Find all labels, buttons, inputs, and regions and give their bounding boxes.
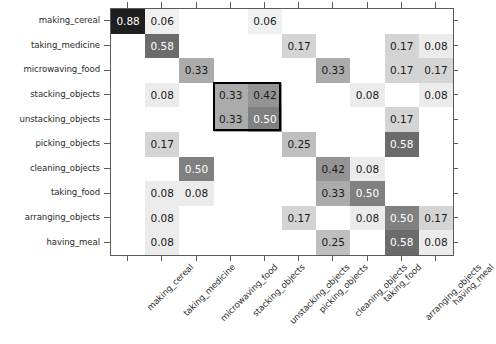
heatmap-cell-value: 0.42 — [253, 90, 276, 101]
heatmap-cell-value: 0.33 — [219, 114, 242, 125]
heatmap-cell — [282, 83, 316, 108]
heatmap-cell — [111, 58, 145, 83]
heatmap-cell — [111, 206, 145, 231]
heatmap-cell-value: 0.33 — [322, 65, 345, 76]
heatmap-cell — [419, 181, 453, 206]
heatmap-cell — [111, 132, 145, 157]
heatmap-cell — [316, 107, 350, 132]
heatmap-cell: 0.17 — [385, 34, 419, 59]
heatmap-cell — [316, 9, 350, 34]
heatmap-cell — [419, 107, 453, 132]
heatmap-cell: 0.50 — [248, 107, 282, 132]
heatmap-cell: 0.50 — [179, 157, 213, 182]
heatmap-cell — [214, 181, 248, 206]
heatmap-cell — [248, 157, 282, 182]
heatmap-cell-value: 0.17 — [287, 213, 310, 224]
heatmap-cell — [282, 58, 316, 83]
heatmap-cell-value: 0.06 — [151, 16, 174, 27]
heatmap-cell — [248, 181, 282, 206]
heatmap-cell: 0.08 — [350, 157, 384, 182]
y-tick-label: taking_food — [0, 180, 106, 205]
y-tick-label: having_meal — [0, 229, 106, 254]
heatmap-cell — [179, 34, 213, 59]
heatmap-cell-value: 0.58 — [151, 41, 174, 52]
heatmap-cell-value: 0.08 — [356, 164, 379, 175]
heatmap-cell-value: 0.50 — [356, 188, 379, 199]
heatmap-cell: 0.08 — [145, 206, 179, 231]
heatmap-cell — [179, 132, 213, 157]
heatmap-cell-value: 0.50 — [185, 164, 208, 175]
x-tick-label: arranging_objects — [423, 262, 483, 322]
heatmap-cell: 0.08 — [145, 83, 179, 108]
heatmap-cell — [419, 9, 453, 34]
heatmap-cell: 0.33 — [214, 83, 248, 108]
heatmap-cell-value: 0.33 — [185, 65, 208, 76]
heatmap-cell — [282, 9, 316, 34]
heatmap-cell — [350, 230, 384, 255]
heatmap-cell-value: 0.08 — [151, 213, 174, 224]
heatmap-cell-value: 0.25 — [287, 139, 310, 150]
heatmap-cell — [179, 206, 213, 231]
heatmap-cell-value: 0.08 — [424, 90, 447, 101]
heatmap-cell — [419, 132, 453, 157]
x-axis-tick-labels: making_cerealtaking_medicinemicrowaving_… — [110, 262, 452, 344]
heatmap-cell: 0.17 — [385, 58, 419, 83]
heatmap-cell: 0.17 — [419, 58, 453, 83]
heatmap-cell-value: 0.17 — [424, 213, 447, 224]
heatmap-cell — [111, 157, 145, 182]
heatmap-cell — [248, 132, 282, 157]
heatmap-cell: 0.17 — [385, 107, 419, 132]
heatmap-cell-value: 0.08 — [151, 90, 174, 101]
heatmap-cell — [385, 181, 419, 206]
heatmap-cell-value: 0.17 — [151, 139, 174, 150]
heatmap-cell: 0.33 — [179, 58, 213, 83]
heatmap-cell — [179, 83, 213, 108]
heatmap-cell: 0.17 — [419, 206, 453, 231]
heatmap-cell-value: 0.50 — [390, 213, 413, 224]
heatmap-cell: 0.58 — [385, 132, 419, 157]
heatmap-cell — [145, 58, 179, 83]
heatmap-cell-value: 0.25 — [322, 237, 345, 248]
heatmap-cell: 0.50 — [385, 206, 419, 231]
heatmap-cell — [179, 9, 213, 34]
heatmap-cell-value: 0.33 — [219, 90, 242, 101]
y-tick-label: picking_objects — [0, 131, 106, 156]
heatmap-cell — [282, 230, 316, 255]
heatmap-grid: 0.880.060.060.580.170.170.080.330.330.17… — [110, 8, 454, 256]
heatmap-cell: 0.17 — [282, 34, 316, 59]
heatmap-cell — [179, 107, 213, 132]
heatmap-cell-value: 0.08 — [151, 188, 174, 199]
heatmap-cell-value: 0.17 — [390, 41, 413, 52]
heatmap-cell — [111, 83, 145, 108]
heatmap-cell-value: 0.17 — [390, 65, 413, 76]
heatmap-cell: 0.08 — [419, 83, 453, 108]
heatmap-cell-value: 0.50 — [253, 114, 276, 125]
heatmap-cell-value: 0.08 — [356, 213, 379, 224]
heatmap-cell: 0.33 — [214, 107, 248, 132]
heatmap-cell — [214, 34, 248, 59]
heatmap-cell-value: 0.06 — [253, 16, 276, 27]
heatmap-cell-value: 0.08 — [424, 41, 447, 52]
y-tick-label: taking_medicine — [0, 33, 106, 58]
heatmap-cell: 0.50 — [350, 181, 384, 206]
y-tick-label: making_cereal — [0, 8, 106, 33]
heatmap-cell — [350, 9, 384, 34]
heatmap-cell — [214, 230, 248, 255]
heatmap-cell — [282, 107, 316, 132]
heatmap-cell — [248, 58, 282, 83]
heatmap-cell-value: 0.17 — [424, 65, 447, 76]
heatmap-cell: 0.08 — [179, 181, 213, 206]
heatmap-cell — [282, 181, 316, 206]
heatmap-cell: 0.42 — [248, 83, 282, 108]
heatmap-cell-value: 0.08 — [424, 237, 447, 248]
heatmap-cell: 0.08 — [419, 230, 453, 255]
heatmap-cell — [248, 34, 282, 59]
heatmap-cell-value: 0.08 — [185, 188, 208, 199]
heatmap-cell — [248, 230, 282, 255]
heatmap-cell: 0.17 — [282, 206, 316, 231]
y-tick-label: unstacking_objects — [0, 106, 106, 131]
heatmap-cell: 0.58 — [385, 230, 419, 255]
heatmap-cell: 0.08 — [419, 34, 453, 59]
heatmap-cell — [350, 58, 384, 83]
heatmap-cell: 0.25 — [316, 230, 350, 255]
